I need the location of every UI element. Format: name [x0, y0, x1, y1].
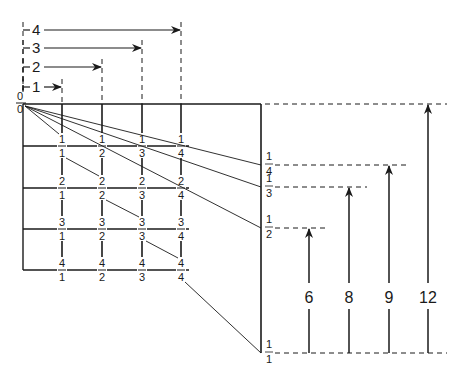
svg-text:4: 4 — [139, 257, 145, 269]
diagonal-segment — [146, 241, 178, 258]
scale-mark-1-2: 12 — [265, 213, 327, 240]
top-brackets: 1234 — [23, 21, 180, 95]
svg-text:3: 3 — [99, 216, 105, 228]
svg-text:3: 3 — [178, 216, 184, 228]
svg-text:1: 1 — [59, 271, 65, 283]
arrow-label: 12 — [419, 289, 437, 306]
bracket-label: 3 — [32, 39, 40, 56]
svg-text:3: 3 — [139, 271, 145, 283]
bracket-label: 4 — [32, 21, 40, 38]
right-scale: 14131211 — [261, 104, 447, 365]
svg-text:2: 2 — [266, 228, 272, 240]
dashed-column-guides — [62, 22, 181, 104]
diagonal-segment — [66, 158, 99, 176]
value-arrow-9: 9 — [385, 166, 394, 353]
svg-text:1: 1 — [266, 213, 272, 225]
svg-text:1: 1 — [266, 338, 272, 350]
arrow-label: 9 — [385, 289, 394, 306]
arrow-label: 6 — [305, 289, 314, 306]
svg-text:4: 4 — [178, 189, 184, 201]
svg-text:2: 2 — [139, 175, 145, 187]
svg-text:4: 4 — [59, 257, 65, 269]
svg-text:1: 1 — [266, 353, 272, 365]
bracket-label: 2 — [32, 58, 40, 75]
value-arrow-6: 6 — [305, 229, 314, 353]
svg-text:1: 1 — [266, 150, 272, 162]
svg-text:2: 2 — [99, 271, 105, 283]
value-arrow-8: 8 — [345, 188, 354, 353]
svg-text:4: 4 — [178, 147, 184, 159]
bracket-label: 1 — [32, 78, 40, 95]
scale-mark-1-4: 14 — [265, 150, 407, 177]
svg-text:4: 4 — [178, 230, 184, 242]
bracket-1: 1 — [23, 78, 61, 95]
svg-text:1: 1 — [178, 133, 184, 145]
value-arrows: 68912 — [305, 105, 437, 353]
svg-text:4: 4 — [99, 257, 105, 269]
svg-text:1: 1 — [59, 133, 65, 145]
fan-line — [25, 106, 261, 228]
svg-text:1: 1 — [59, 189, 65, 201]
svg-text:4: 4 — [178, 257, 184, 269]
fraction-ratio-diagram: 1234 0 0 1121314112223242132333431424344… — [0, 0, 461, 380]
scale-mark-1-1: 11 — [265, 338, 447, 365]
svg-text:3: 3 — [266, 187, 272, 199]
svg-text:1: 1 — [59, 147, 65, 159]
svg-text:2: 2 — [99, 175, 105, 187]
fan-line — [185, 282, 261, 353]
svg-text:3: 3 — [139, 230, 145, 242]
svg-text:3: 3 — [139, 189, 145, 201]
value-arrow-12: 12 — [419, 105, 437, 353]
svg-text:3: 3 — [59, 216, 65, 228]
diagonal-segment — [106, 200, 139, 217]
origin-label-bottom: 0 — [17, 103, 23, 115]
scale-mark-1-3: 13 — [265, 172, 367, 199]
bracket-3: 3 — [23, 39, 141, 92]
svg-text:2: 2 — [59, 175, 65, 187]
svg-text:1: 1 — [59, 230, 65, 242]
arrow-label: 8 — [345, 289, 354, 306]
grid: 11213141122232421323334314243444 — [23, 104, 261, 283]
svg-text:2: 2 — [99, 189, 105, 201]
origin-label-top: 0 — [17, 90, 23, 102]
svg-text:3: 3 — [139, 147, 145, 159]
svg-text:3: 3 — [139, 216, 145, 228]
svg-text:2: 2 — [99, 147, 105, 159]
svg-text:1: 1 — [266, 172, 272, 184]
svg-text:2: 2 — [99, 230, 105, 242]
svg-text:1: 1 — [99, 133, 105, 145]
svg-text:4: 4 — [178, 271, 184, 283]
